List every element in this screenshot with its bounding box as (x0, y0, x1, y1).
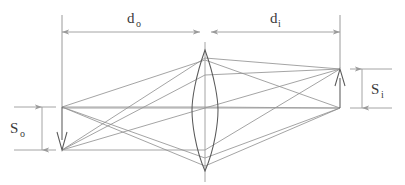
ray-tail-upper-edge (62, 60, 340, 108)
lens-ray-diagram: d o d i S o S i (0, 0, 405, 185)
image-size-label-subscript: i (381, 89, 384, 100)
object-size-label-subscript: o (20, 128, 25, 139)
ray-tail-lower-edge (62, 107, 340, 166)
ray-tip-center (62, 69, 340, 150)
ray-tip-upper-edge (62, 58, 340, 150)
ray-bundle (62, 58, 340, 166)
ray-diagram-canvas: d o d i S o S i (0, 0, 405, 185)
image-distance-label-subscript: i (278, 18, 281, 29)
object-distance-label-subscript: o (136, 18, 141, 29)
image-distance-label: d (270, 10, 278, 26)
image-size-label: S (371, 81, 379, 97)
object-size-label: S (10, 120, 18, 136)
image-arrow (335, 69, 345, 108)
object-distance-label: d (127, 10, 135, 26)
object-arrow (57, 107, 67, 150)
